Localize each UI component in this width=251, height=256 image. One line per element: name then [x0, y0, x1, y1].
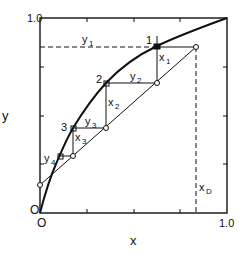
svg-text:D: D: [206, 187, 212, 196]
svg-text:1: 1: [166, 57, 171, 66]
y-tick-0: O: [30, 203, 39, 217]
x3-label: x 3: [75, 131, 87, 146]
y-axis-label: y: [2, 108, 9, 123]
svg-text:y: y: [82, 33, 88, 45]
x2-label: x 2: [108, 96, 120, 111]
svg-text:2: 2: [115, 102, 120, 111]
y1-label: y 1: [82, 33, 94, 48]
svg-text:y: y: [130, 70, 136, 82]
svg-text:y: y: [44, 152, 50, 164]
operating-line: [40, 47, 196, 185]
svg-text:2: 2: [137, 76, 142, 85]
x1-label: x 1: [159, 51, 171, 66]
stage-label-3: 3: [61, 121, 67, 133]
svg-text:x: x: [199, 181, 205, 193]
stage-label-2: 2: [96, 73, 102, 85]
mccabe-thiele-diagram: 1.0 O O 1.0 y x y 1 x 1 y 2 x 2 y 3 x 3 …: [0, 0, 251, 256]
svg-text:4: 4: [51, 158, 56, 167]
svg-text:x: x: [75, 131, 81, 143]
svg-text:1: 1: [89, 39, 94, 48]
xD-label: x D: [199, 181, 212, 196]
y4-label: y 4: [44, 152, 56, 167]
y-tick-1: 1.0: [27, 12, 42, 24]
x-axis-label: x: [130, 233, 137, 248]
x-tick-1: 1.0: [219, 217, 234, 229]
svg-text:y: y: [85, 115, 91, 127]
svg-text:x: x: [108, 96, 114, 108]
svg-text:x: x: [159, 51, 165, 63]
svg-text:3: 3: [92, 121, 97, 130]
x-tick-0: O: [37, 216, 46, 230]
svg-text:3: 3: [82, 137, 87, 146]
stage-label-1: 1: [146, 34, 152, 46]
